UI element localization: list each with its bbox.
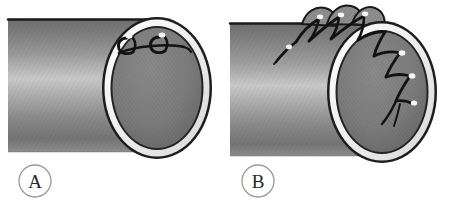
lumen-surface	[338, 32, 427, 152]
panel-a-illustration: A	[0, 0, 225, 210]
panel-a-label: A	[19, 165, 51, 197]
panel-b: B	[224, 0, 449, 210]
figure-container: A	[0, 0, 449, 210]
panel-b-label: B	[242, 165, 274, 197]
panel-b-illustration: B	[224, 0, 449, 210]
panel-b-label-text: B	[252, 171, 265, 192]
panel-a-label-text: A	[28, 171, 42, 192]
panel-a: A	[0, 0, 225, 210]
